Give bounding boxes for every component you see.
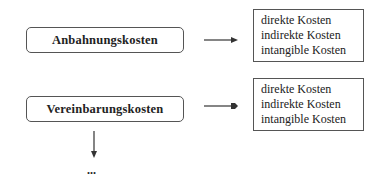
- arrow-down-icon: [91, 131, 97, 158]
- arrow-right-icon: [204, 37, 238, 43]
- continuation-ellipsis: ...: [87, 163, 96, 178]
- connector-arrows: [0, 0, 381, 195]
- arrow-right-icon: [204, 103, 238, 109]
